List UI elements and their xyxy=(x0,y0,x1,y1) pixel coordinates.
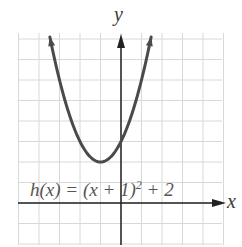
y-axis-arrow-icon xyxy=(117,34,125,48)
x-axis-label: x xyxy=(227,190,236,213)
graph-plot xyxy=(0,0,242,247)
equation-tail: + 2 xyxy=(142,179,174,200)
function-equation-label: h(x) = (x + 1)2 + 2 xyxy=(30,178,174,201)
equation-main: h(x) = (x + 1) xyxy=(30,179,136,200)
y-axis-label: y xyxy=(114,3,123,26)
